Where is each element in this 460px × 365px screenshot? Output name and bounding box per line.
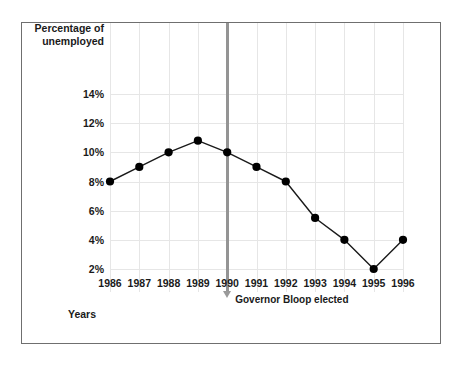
y-axis-tick-2: 2%	[8, 264, 104, 275]
y-axis-title: Percentage of unemployed	[12, 22, 104, 48]
event-annotation-label: Governor Bloop elected	[235, 294, 348, 305]
data-point-1988	[165, 148, 173, 156]
series-line	[110, 141, 403, 269]
event-arrow-icon	[223, 291, 231, 298]
y-axis-tick-8: 8%	[8, 177, 104, 188]
y-axis-tick-12: 12%	[8, 118, 104, 129]
y-axis-tick-10: 10%	[8, 147, 104, 158]
data-point-1989	[194, 137, 202, 145]
y-axis-tick-6: 6%	[8, 206, 104, 217]
data-point-1994	[340, 236, 348, 244]
data-point-1991	[252, 163, 260, 171]
data-point-1995	[370, 265, 378, 273]
unemployment-series	[110, 23, 403, 292]
y-axis-tick-14: 14%	[8, 89, 104, 100]
y-axis-title-line-1: Percentage of	[12, 22, 104, 35]
unemployment-line-chart-figure: Percentage of unemployed 14%12%10%8%6%4%…	[0, 0, 460, 365]
data-point-1990	[223, 148, 231, 156]
plot-area	[110, 23, 403, 292]
data-point-1993	[311, 214, 319, 222]
x-axis-tick-1996: 1996	[382, 277, 424, 289]
x-axis-title: Years	[68, 308, 96, 320]
data-point-1996	[399, 236, 407, 244]
vertical-gridline	[403, 23, 404, 292]
y-axis-tick-4: 4%	[8, 235, 104, 246]
data-point-1992	[282, 177, 290, 185]
data-point-1987	[135, 163, 143, 171]
y-axis-title-line-2: unemployed	[12, 35, 104, 48]
data-point-1986	[106, 177, 114, 185]
